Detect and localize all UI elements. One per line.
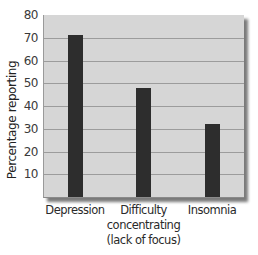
x-tick-label: Insomnia — [167, 203, 257, 218]
x-tick-label-line: concentrating — [99, 218, 189, 233]
bar-depression — [68, 35, 83, 197]
y-tick-label: 40 — [8, 100, 38, 112]
y-tick-label: 80 — [8, 9, 38, 21]
y-tick-label: 10 — [8, 168, 38, 180]
x-tick-label-line: (lack of focus) — [99, 233, 189, 248]
x-tick-label-line: Insomnia — [167, 203, 257, 218]
y-tick-label: 60 — [8, 55, 38, 67]
y-tick-label: 30 — [8, 123, 38, 135]
bar-difficulty — [136, 88, 151, 197]
bar-insomnia — [205, 124, 220, 197]
y-tick-label: 50 — [8, 77, 38, 89]
y-tick-label: 20 — [8, 146, 38, 158]
plot-area — [43, 15, 244, 198]
y-tick-label: 70 — [8, 32, 38, 44]
